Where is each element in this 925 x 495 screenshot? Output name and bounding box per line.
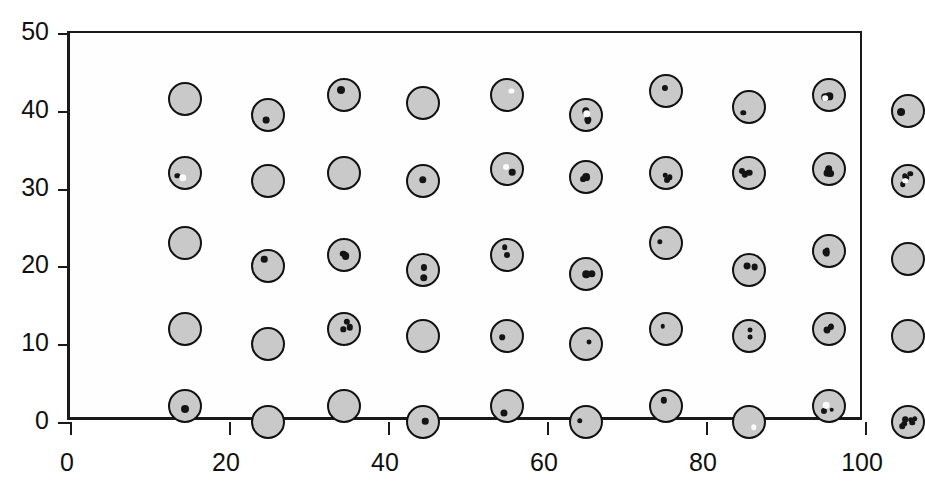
data-point-circle[interactable] (251, 249, 285, 283)
data-point-circle[interactable] (649, 226, 683, 260)
data-point-circle[interactable] (732, 156, 766, 190)
data-point-circle[interactable] (490, 319, 524, 353)
data-point-circle[interactable] (168, 156, 202, 190)
data-point-circle[interactable] (251, 405, 285, 439)
x-axis-tick (229, 422, 231, 435)
dark-dot-marker (263, 117, 270, 124)
y-axis-tick (58, 111, 70, 113)
circle-marker (649, 74, 683, 108)
data-point-circle[interactable] (812, 152, 846, 186)
circle-marker (251, 164, 285, 198)
data-point-circle[interactable] (406, 86, 440, 120)
circle-marker (406, 86, 440, 120)
white-dot-marker (583, 110, 591, 118)
data-point-circle[interactable] (490, 389, 524, 423)
y-axis-label-50: 50 (3, 17, 49, 46)
data-point-circle[interactable] (569, 98, 603, 132)
data-point-circle[interactable] (327, 156, 361, 190)
circle-marker (732, 90, 766, 124)
x-axis-label-20: 20 (191, 448, 261, 477)
y-axis-tick (58, 33, 70, 35)
data-point-circle[interactable] (891, 242, 925, 276)
x-axis-tick (388, 422, 390, 435)
white-dot-marker (822, 401, 829, 408)
data-point-circle[interactable] (732, 319, 766, 353)
data-point-circle[interactable] (812, 389, 846, 423)
plot-area (67, 31, 862, 420)
data-point-circle[interactable] (406, 253, 440, 287)
data-point-circle[interactable] (649, 156, 683, 190)
circle-marker (569, 405, 603, 439)
data-point-circle[interactable] (649, 389, 683, 423)
data-point-circle[interactable] (812, 78, 846, 112)
data-point-circle[interactable] (251, 98, 285, 132)
white-dot-marker (902, 178, 908, 184)
data-point-circle[interactable] (891, 164, 925, 198)
y-axis-label-40: 40 (3, 94, 49, 123)
dark-dot-marker (661, 324, 666, 329)
dark-dot-marker (751, 264, 758, 271)
data-point-circle[interactable] (569, 257, 603, 291)
data-point-circle[interactable] (569, 405, 603, 439)
dark-dot-marker (342, 252, 350, 260)
dark-dot-marker (829, 324, 834, 329)
x-axis-tick (547, 422, 549, 435)
data-point-circle[interactable] (490, 78, 524, 112)
dark-dot-marker (500, 334, 506, 340)
data-point-circle[interactable] (168, 226, 202, 260)
data-point-circle[interactable] (490, 238, 524, 272)
circle-marker (490, 78, 524, 112)
data-point-circle[interactable] (732, 405, 766, 439)
y-axis-tick (58, 422, 70, 424)
circle-marker (168, 226, 202, 260)
dark-dot-marker (502, 244, 508, 250)
data-point-circle[interactable] (812, 234, 846, 268)
data-point-circle[interactable] (812, 312, 846, 346)
data-point-circle[interactable] (168, 312, 202, 346)
y-axis-label-10: 10 (3, 328, 49, 357)
data-point-circle[interactable] (327, 78, 361, 112)
data-point-circle[interactable] (406, 164, 440, 198)
circle-marker (490, 319, 524, 353)
x-axis-label-40: 40 (350, 448, 420, 477)
data-point-circle[interactable] (569, 327, 603, 361)
data-point-circle[interactable] (406, 319, 440, 353)
data-point-circle[interactable] (732, 90, 766, 124)
data-point-circle[interactable] (649, 74, 683, 108)
dark-dot-marker (823, 250, 830, 257)
data-point-circle[interactable] (891, 405, 925, 439)
x-axis-tick (70, 422, 72, 435)
data-point-circle[interactable] (732, 253, 766, 287)
circle-marker (327, 78, 361, 112)
dark-dot-marker (504, 252, 510, 258)
x-axis-label-100: 100 (827, 448, 897, 477)
data-point-circle[interactable] (891, 94, 925, 128)
data-point-circle[interactable] (406, 405, 440, 439)
data-point-circle[interactable] (168, 389, 202, 423)
data-point-circle[interactable] (327, 238, 361, 272)
circle-marker (490, 389, 524, 423)
data-point-circle[interactable] (251, 327, 285, 361)
dark-dot-marker (582, 270, 590, 278)
data-point-circle[interactable] (168, 82, 202, 116)
circle-marker (649, 312, 683, 346)
data-point-circle[interactable] (569, 160, 603, 194)
dark-dot-marker (586, 340, 591, 345)
circle-marker (732, 405, 766, 439)
dark-dot-marker (337, 86, 345, 94)
data-point-circle[interactable] (327, 312, 361, 346)
data-point-circle[interactable] (649, 312, 683, 346)
data-point-circle[interactable] (891, 319, 925, 353)
data-point-circle[interactable] (327, 389, 361, 423)
circle-marker (251, 405, 285, 439)
y-axis-label-30: 30 (3, 172, 49, 201)
circle-marker (891, 164, 925, 198)
dark-dot-marker (829, 407, 834, 412)
circle-marker (649, 226, 683, 260)
circle-marker (649, 389, 683, 423)
data-point-circle[interactable] (490, 152, 524, 186)
y-axis-label-20: 20 (3, 250, 49, 279)
dark-dot-marker (422, 418, 429, 425)
y-axis-label-0: 0 (3, 406, 49, 435)
data-point-circle[interactable] (251, 164, 285, 198)
